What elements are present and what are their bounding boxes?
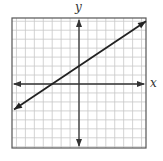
line-arrow-left-icon [14, 102, 22, 109]
x-axis-left-arrow-icon [13, 81, 21, 87]
y-axis [76, 19, 82, 147]
coordinate-plane [0, 0, 163, 161]
y-axis-down-arrow-icon [76, 139, 82, 147]
x-axis-label: x [150, 76, 157, 90]
x-axis-right-arrow-icon [137, 81, 145, 87]
line-arrow-right-icon [138, 21, 146, 28]
y-axis-up-arrow-icon [76, 19, 82, 27]
y-axis-label: y [75, 0, 82, 14]
plotted-line [14, 21, 146, 109]
